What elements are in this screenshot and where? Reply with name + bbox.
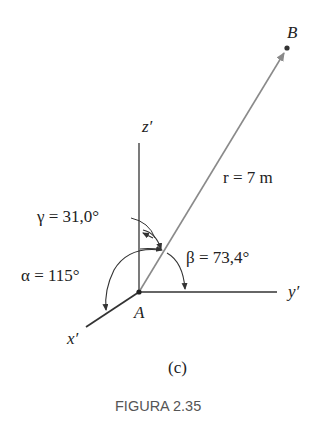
label-subfigure: (c) bbox=[168, 358, 187, 377]
label-b: B bbox=[287, 23, 298, 42]
label-beta: β = 73,4° bbox=[186, 248, 249, 267]
point-a bbox=[136, 289, 141, 294]
label-x-axis: x′ bbox=[66, 329, 79, 348]
label-z-axis: z′ bbox=[141, 117, 153, 136]
gamma-leader bbox=[131, 218, 155, 238]
point-b bbox=[284, 45, 289, 50]
beta-arc bbox=[167, 253, 185, 289]
alpha-arc bbox=[106, 249, 161, 310]
figure-caption: FIGURA 2.35 bbox=[115, 398, 201, 414]
label-a: A bbox=[133, 303, 145, 322]
label-vector-r: r = 7 m bbox=[223, 168, 273, 187]
label-gamma: γ = 31,0° bbox=[36, 207, 99, 226]
x-axis bbox=[86, 292, 139, 327]
vector-diagram: B z′ y′ x′ A r = 7 m γ = 31,0° β = 73,4°… bbox=[0, 0, 325, 433]
label-y-axis: y′ bbox=[286, 282, 300, 301]
label-alpha: α = 115° bbox=[21, 266, 80, 285]
